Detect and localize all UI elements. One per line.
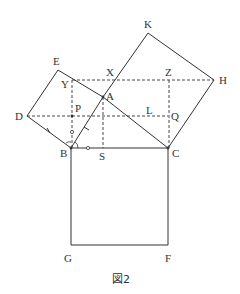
label-e: E (53, 55, 60, 67)
tick-mark-ba (84, 127, 89, 130)
square-achk (103, 33, 214, 148)
label-c: C (172, 147, 179, 159)
angle-arc-b-left (66, 142, 71, 143)
label-y: Y (61, 78, 69, 90)
label-d: D (15, 110, 23, 122)
label-l: L (146, 104, 153, 116)
label-p: P (75, 102, 81, 114)
label-z: Z (165, 66, 172, 78)
tick-mark-bs (86, 146, 89, 149)
label-f: F (165, 252, 171, 264)
label-h: H (219, 74, 227, 86)
label-g: G (64, 252, 72, 264)
angle-arc-b-right (75, 142, 78, 148)
point-c (167, 147, 170, 150)
label-x: X (106, 66, 114, 78)
pythagorean-diagram: E D Y X K Z H A P L Q B S C G F 図2 (0, 0, 240, 294)
tick-mark-bp (70, 130, 73, 133)
point-p (71, 115, 74, 118)
label-s: S (99, 150, 105, 162)
point-b (70, 147, 73, 150)
point-a (102, 96, 105, 99)
square-bcfg (71, 148, 168, 245)
label-k: K (144, 18, 152, 30)
figure-caption: 図2 (112, 273, 130, 286)
label-a: A (106, 90, 114, 102)
label-b: B (60, 147, 67, 159)
label-q: Q (171, 110, 179, 122)
